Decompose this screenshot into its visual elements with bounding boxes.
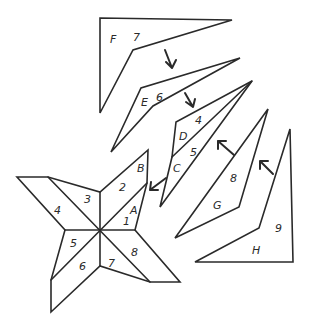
assembly-diagram: F 7 E 6 D 4 C 5 G 8 H bbox=[0, 0, 310, 327]
diagram-svg: F 7 E 6 D 4 C 5 G 8 H bbox=[0, 0, 310, 327]
piece-g-letter: G bbox=[213, 199, 222, 212]
piece-h: H 9 bbox=[195, 129, 293, 262]
piece-f-letter: F bbox=[110, 33, 117, 46]
piece-h-number: 9 bbox=[275, 222, 282, 235]
star-label-4: 4 bbox=[54, 204, 61, 217]
arrow-c-to-star-icon bbox=[150, 178, 166, 190]
piece-g: G 8 bbox=[175, 109, 268, 238]
piece-d-letter: D bbox=[179, 130, 187, 143]
divider-d-c bbox=[172, 81, 252, 157]
star-label-8: 8 bbox=[131, 246, 138, 259]
arrow-e-to-d-icon bbox=[185, 93, 195, 107]
piece-c-number: 5 bbox=[190, 146, 197, 159]
arrow-g-icon bbox=[218, 141, 234, 155]
piece-e-number: 6 bbox=[156, 91, 163, 104]
star-label-5: 5 bbox=[70, 237, 77, 250]
piece-e: E 6 bbox=[111, 58, 240, 152]
star-label-6: 6 bbox=[79, 260, 86, 273]
piece-d-number: 4 bbox=[195, 114, 202, 127]
star-label-1: 1 bbox=[123, 215, 130, 228]
arrow-h-icon bbox=[260, 161, 273, 174]
piece-e-letter: E bbox=[141, 96, 148, 109]
piece-g-number: 8 bbox=[230, 172, 237, 185]
star-label-a: A bbox=[129, 204, 138, 217]
star-label-2: 2 bbox=[119, 181, 126, 194]
piece-f-number: 7 bbox=[133, 31, 140, 44]
star-label-3: 3 bbox=[84, 193, 91, 206]
star-assembly: 1 2 3 4 5 6 7 8 A B bbox=[17, 150, 180, 312]
piece-h-letter: H bbox=[252, 244, 260, 257]
star-label-b: B bbox=[137, 162, 145, 175]
piece-d-c: D 4 C 5 bbox=[160, 81, 252, 207]
star-label-7: 7 bbox=[108, 257, 115, 270]
piece-c-letter: C bbox=[173, 162, 181, 175]
arrow-f-to-e-icon bbox=[165, 50, 176, 68]
